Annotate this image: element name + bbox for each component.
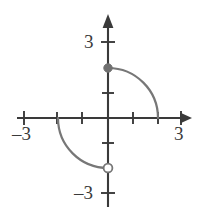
- plot-canvas: [0, 0, 204, 207]
- closed-endpoint-dot: [104, 64, 112, 72]
- open-endpoint-dot: [104, 164, 113, 173]
- y-axis-label-negative-three: –3: [74, 183, 93, 202]
- y-axis-arrowhead-icon: [103, 14, 114, 28]
- x-axis-label-negative-three: –3: [12, 124, 31, 143]
- y-axis-label-positive-three: 3: [84, 32, 94, 51]
- curve-quadrant-three-arc: [58, 118, 108, 168]
- x-axis-label-positive-three: 3: [174, 124, 184, 143]
- coordinate-plane-figure: 3 –3 –3 3: [0, 0, 204, 207]
- curve-quadrant-one-arc: [108, 68, 158, 118]
